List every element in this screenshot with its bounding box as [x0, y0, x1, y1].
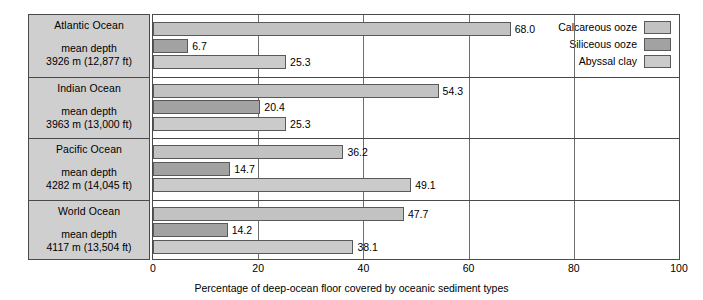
bar-value-label: 25.3	[286, 55, 310, 69]
bar-siliceous[interactable]	[153, 39, 188, 53]
bar-abyssal[interactable]	[153, 117, 286, 131]
bar-value-label: 49.1	[411, 178, 435, 192]
x-tick-label: 0	[150, 261, 156, 275]
mean-depth-value: 4282 m (14,045 ft)	[46, 179, 132, 192]
x-tick-label: 60	[463, 261, 475, 275]
bar-value-label: 25.3	[286, 117, 310, 131]
mean-depth-caption: mean depth	[46, 42, 132, 55]
bar-calcareous[interactable]	[153, 145, 343, 159]
bar-value-label: 54.3	[439, 84, 463, 98]
bar-value-label: 6.7	[188, 39, 207, 53]
bar-siliceous[interactable]	[153, 100, 260, 114]
ocean-label-cell: Indian Ocean mean depth 3963 m (13,000 f…	[29, 77, 149, 139]
bar-value-label: 68.0	[511, 22, 535, 36]
bar-abyssal[interactable]	[153, 178, 411, 192]
mean-depth-block: mean depth 4282 m (14,045 ft)	[46, 166, 132, 192]
bar-siliceous[interactable]	[153, 223, 228, 237]
bar-abyssal[interactable]	[153, 240, 353, 254]
bar-group: 36.214.749.1	[153, 138, 679, 200]
mean-depth-value: 3963 m (13,000 ft)	[46, 118, 132, 131]
bar-abyssal[interactable]	[153, 55, 286, 69]
ocean-label-cell: Pacific Ocean mean depth 4282 m (14,045 …	[29, 138, 149, 200]
bar-group: 54.320.425.3	[153, 77, 679, 139]
sediment-coverage-chart: Atlantic Ocean mean depth 3926 m (12,877…	[0, 0, 703, 300]
x-axis-title: Percentage of deep-ocean floor covered b…	[0, 282, 703, 295]
bar-calcareous[interactable]	[153, 22, 511, 36]
bar-value-label: 14.2	[228, 223, 252, 237]
x-tick-label: 40	[358, 261, 370, 275]
ocean-name: Indian Ocean	[57, 82, 121, 95]
ocean-name: Pacific Ocean	[56, 143, 122, 156]
bar-value-label: 47.7	[404, 207, 428, 221]
bar-group: 47.714.238.1	[153, 200, 679, 262]
bar-value-label: 20.4	[260, 100, 284, 114]
x-axis-tick-labels: 020406080100	[152, 261, 680, 277]
ocean-label-column: Atlantic Ocean mean depth 3926 m (12,877…	[28, 14, 150, 260]
bar-calcareous[interactable]	[153, 84, 439, 98]
plot-area: Calcareous ooze Siliceous ooze Abyssal c…	[152, 14, 680, 260]
ocean-name: Atlantic Ocean	[54, 19, 124, 32]
x-tick-label: 20	[252, 261, 264, 275]
mean-depth-block: mean depth 3926 m (12,877 ft)	[46, 42, 132, 68]
bar-value-label: 14.7	[230, 162, 254, 176]
mean-depth-caption: mean depth	[46, 105, 132, 118]
mean-depth-value: 3926 m (12,877 ft)	[46, 55, 132, 68]
bar-siliceous[interactable]	[153, 162, 230, 176]
bar-group: 68.06.725.3	[153, 15, 679, 77]
ocean-label-cell: World Ocean mean depth 4117 m (13,504 ft…	[29, 200, 149, 262]
mean-depth-caption: mean depth	[46, 166, 132, 179]
bar-calcareous[interactable]	[153, 207, 404, 221]
mean-depth-block: mean depth 4117 m (13,504 ft)	[46, 228, 131, 254]
x-tick-label: 100	[670, 261, 688, 275]
ocean-name: World Ocean	[58, 205, 120, 218]
x-tick-label: 80	[568, 261, 580, 275]
bar-value-label: 38.1	[353, 240, 377, 254]
mean-depth-block: mean depth 3963 m (13,000 ft)	[46, 105, 132, 131]
mean-depth-value: 4117 m (13,504 ft)	[46, 241, 131, 254]
bar-value-label: 36.2	[343, 145, 367, 159]
mean-depth-caption: mean depth	[46, 228, 131, 241]
ocean-label-cell: Atlantic Ocean mean depth 3926 m (12,877…	[29, 15, 149, 77]
